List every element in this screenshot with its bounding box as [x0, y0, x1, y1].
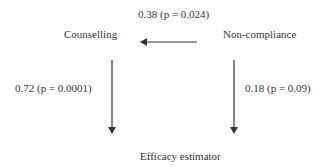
node-efficacy-estimator: Efficacy estimator [140, 151, 221, 162]
node-non-compliance: Non-compliance [223, 29, 296, 40]
node-counselling: Counselling [64, 29, 117, 40]
edge-label-counselling-efficacy: 0.72 (p = 0.0001) [15, 83, 92, 94]
edge-label-noncompliance-efficacy: 0.18 (p = 0.09) [245, 83, 311, 94]
edge-label-noncompliance-counselling: 0.38 (p = 0.024) [138, 9, 209, 20]
